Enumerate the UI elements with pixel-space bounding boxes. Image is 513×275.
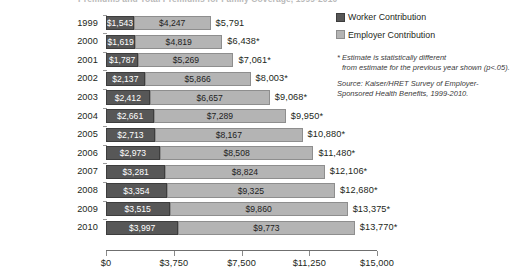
bar-segment-worker: $2,661 bbox=[106, 109, 154, 123]
bar-segment-worker: $2,412 bbox=[106, 90, 150, 104]
stacked-bar: $2,713$8,167 bbox=[106, 128, 303, 142]
bar-segment-employer: $8,824 bbox=[165, 165, 324, 179]
bar-segment-employer: $8,508 bbox=[160, 146, 314, 160]
chart-row: 2006$2,973$8,508$11,480* bbox=[0, 145, 513, 164]
legend-label-employer: Employer Contribution bbox=[348, 30, 435, 40]
bar-segment-employer: $4,819 bbox=[135, 35, 222, 49]
bar-segment-employer: $4,247 bbox=[134, 16, 211, 30]
axis-tick-label: $11,250 bbox=[293, 258, 326, 268]
row-year-label: 2008 bbox=[34, 185, 98, 195]
row-year-label: 2006 bbox=[34, 148, 98, 158]
row-year-label: 2004 bbox=[34, 111, 98, 121]
stacked-bar: $3,281$8,824 bbox=[106, 165, 325, 179]
bar-segment-worker: $1,787 bbox=[106, 53, 138, 67]
row-total-label: $10,880* bbox=[308, 129, 346, 139]
row-total-label: $11,480* bbox=[318, 148, 355, 158]
bar-segment-worker: $3,515 bbox=[106, 202, 170, 216]
axis-tick bbox=[242, 251, 243, 256]
row-total-label: $9,068* bbox=[275, 92, 307, 102]
plot-area: 2010$3,997$9,773$13,770*2009$3,515$9,860… bbox=[0, 9, 513, 275]
row-total-label: $8,003* bbox=[256, 73, 288, 83]
row-year-label: 1999 bbox=[34, 18, 98, 28]
axis-tick-label: $3,750 bbox=[159, 258, 188, 268]
bar-segment-employer: $7,289 bbox=[154, 109, 286, 123]
stacked-bar: $2,412$6,657 bbox=[106, 90, 270, 104]
row-year-label: 2005 bbox=[34, 129, 98, 139]
chart-row: 2005$2,713$8,167$10,880* bbox=[0, 126, 513, 145]
premiums-stacked-bar-chart: Premiums and Total Premiums for Family C… bbox=[0, 0, 513, 275]
bar-segment-worker: $1,619 bbox=[106, 35, 135, 49]
source-line-2: Sponsored Health Benefits, 1999-2010. bbox=[337, 89, 513, 99]
axis-tick-label: $15,000 bbox=[360, 258, 394, 268]
bar-segment-worker: $3,997 bbox=[106, 221, 178, 235]
chart-notes: * Estimate is statistically different fr… bbox=[337, 53, 513, 100]
row-total-label: $6,438* bbox=[227, 36, 259, 46]
row-total-label: $12,680* bbox=[340, 185, 378, 195]
bar-segment-employer: $9,325 bbox=[167, 183, 335, 197]
bar-segment-worker: $3,281 bbox=[106, 165, 165, 179]
legend-label-worker: Worker Contribution bbox=[348, 12, 426, 22]
row-total-label: $13,375* bbox=[353, 204, 391, 214]
page-title: Premiums and Total Premiums for Family C… bbox=[78, 0, 337, 4]
row-total-label: $5,791 bbox=[216, 18, 245, 28]
chart-row: 2004$2,661$7,289$9,950* bbox=[0, 108, 513, 127]
bar-segment-worker: $2,973 bbox=[106, 146, 160, 160]
row-total-label: $7,061* bbox=[239, 55, 271, 65]
stacked-bar: $2,137$5,866 bbox=[106, 72, 251, 86]
axis-tick-label: $0 bbox=[101, 258, 111, 268]
stacked-bar: $3,515$9,860 bbox=[106, 202, 348, 216]
bar-segment-employer: $9,773 bbox=[178, 221, 355, 235]
row-total-label: $9,950* bbox=[291, 111, 323, 121]
bar-segment-employer: $5,269 bbox=[138, 53, 233, 67]
chart-row: 2008$3,354$9,325$12,680* bbox=[0, 182, 513, 201]
axis-tick bbox=[174, 251, 175, 256]
chart-row: 2010$3,997$9,773$13,770* bbox=[0, 219, 513, 238]
row-year-label: 2001 bbox=[34, 55, 98, 65]
stacked-bar: $2,661$7,289 bbox=[106, 109, 286, 123]
row-year-label: 2003 bbox=[34, 92, 98, 102]
row-year-label: 2009 bbox=[34, 204, 98, 214]
chart-row: 2007$3,281$8,824$12,106* bbox=[0, 163, 513, 182]
bar-segment-worker: $1,543 bbox=[106, 16, 134, 30]
bar-segment-worker: $3,354 bbox=[106, 183, 167, 197]
source-line-1: Source: Kaiser/HRET Survey of Employer- bbox=[337, 79, 513, 89]
chart-row: 2009$3,515$9,860$13,375* bbox=[0, 201, 513, 220]
bar-segment-employer: $8,167 bbox=[155, 128, 303, 142]
row-year-label: 2007 bbox=[34, 166, 98, 176]
stacked-bar: $1,787$5,269 bbox=[106, 53, 234, 67]
bar-segment-employer: $6,657 bbox=[150, 90, 270, 104]
legend-item-employer: Employer Contribution bbox=[336, 30, 511, 40]
legend-item-worker: Worker Contribution bbox=[336, 12, 511, 22]
axis-tick bbox=[106, 251, 107, 256]
axis-tick-label: $7,500 bbox=[227, 258, 256, 268]
bar-segment-employer: $5,866 bbox=[145, 72, 251, 86]
chart-legend: Worker Contribution Employer Contributio… bbox=[336, 12, 511, 47]
stacked-bar: $2,973$8,508 bbox=[106, 146, 313, 160]
row-total-label: $12,106* bbox=[330, 166, 368, 176]
row-year-label: 2010 bbox=[34, 222, 98, 232]
stacked-bar: $1,543$4,247 bbox=[106, 16, 211, 30]
legend-swatch-icon bbox=[336, 30, 345, 39]
row-total-label: $13,770* bbox=[360, 222, 398, 232]
bar-segment-worker: $2,713 bbox=[106, 128, 155, 142]
axis-tick bbox=[377, 251, 378, 256]
bar-segment-worker: $2,137 bbox=[106, 72, 145, 86]
footnote-line-2: from estimate for the previous year show… bbox=[337, 63, 513, 73]
legend-swatch-icon bbox=[336, 13, 345, 22]
row-year-label: 2000 bbox=[34, 36, 98, 46]
axis-tick bbox=[309, 251, 310, 256]
stacked-bar: $3,354$9,325 bbox=[106, 183, 335, 197]
bar-segment-employer: $9,860 bbox=[170, 202, 348, 216]
stacked-bar: $3,997$9,773 bbox=[106, 221, 355, 235]
footnote-line-1: * Estimate is statistically different bbox=[337, 53, 513, 63]
stacked-bar: $1,619$4,819 bbox=[106, 35, 222, 49]
chart-title-strip: Premiums and Total Premiums for Family C… bbox=[0, 0, 513, 9]
row-year-label: 2002 bbox=[34, 73, 98, 83]
